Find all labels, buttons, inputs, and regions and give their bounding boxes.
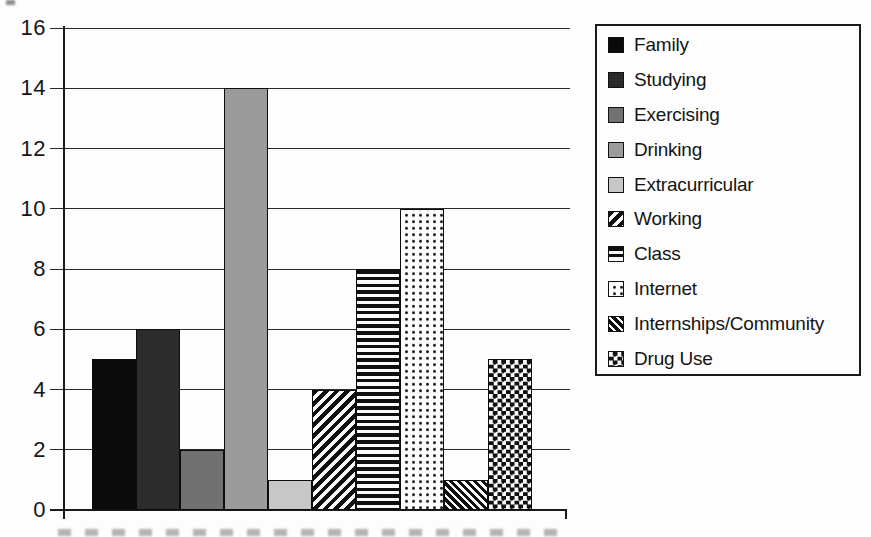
bar-working [312,390,356,511]
legend-label-drug-use: Drug Use [634,348,713,370]
gridline-14 [50,88,570,89]
legend-swatch-exercising [608,107,624,123]
bar-studying [136,329,180,510]
scan-speck-artifact [6,0,15,5]
gridline-12 [50,148,570,149]
legend-label-class: Class [634,243,681,265]
x-axis-end-tick [565,510,567,519]
legend-item-drinking: Drinking [608,132,859,167]
y-axis-line [63,26,65,519]
bar-internet [400,209,444,510]
legend-item-family: Family [608,28,859,63]
ytick-label-2: 2 [0,437,46,463]
bar-exercising [180,450,224,510]
legend-item-drug-use: Drug Use [608,341,859,376]
legend-label-extracurricular: Extracurricular [634,174,753,196]
ytick-label-6: 6 [0,316,46,342]
bar-drug-use [488,359,532,510]
legend-item-internships-community: Internships/Community [608,306,859,341]
ytick-label-14: 14 [0,75,46,101]
ytick-label-12: 12 [0,136,46,162]
legend-label-working: Working [634,208,702,230]
legend-label-studying: Studying [634,69,706,91]
cropped-caption-artifact [58,529,563,536]
gridline-6 [50,329,570,330]
legend-item-internet: Internet [608,272,859,307]
legend-swatch-family [608,37,624,53]
legend-swatch-class [608,246,624,262]
gridline-10 [50,208,570,209]
legend-swatch-drinking [608,142,624,158]
gridline-8 [50,269,570,270]
legend-label-family: Family [634,34,689,56]
legend-label-exercising: Exercising [634,104,720,126]
bar-family [92,359,136,510]
legend-swatch-extracurricular [608,177,624,193]
legend-item-studying: Studying [608,63,859,98]
bar-extracurricular [268,480,312,510]
legend-swatch-internet [608,281,624,297]
scanned-bar-chart-figure: FamilyStudyingExercisingDrinkingExtracur… [0,0,871,537]
ytick-label-16: 16 [0,15,46,41]
legend-swatch-drug-use [608,351,624,367]
legend-item-extracurricular: Extracurricular [608,167,859,202]
ytick-label-10: 10 [0,196,46,222]
legend-label-internet: Internet [634,278,697,300]
legend-swatch-internships-community [608,316,624,332]
ytick-label-4: 4 [0,377,46,403]
legend-item-class: Class [608,237,859,272]
legend: FamilyStudyingExercisingDrinkingExtracur… [595,24,861,376]
ytick-label-8: 8 [0,256,46,282]
legend-item-working: Working [608,202,859,237]
bar-drinking [224,88,268,510]
legend-swatch-working [608,211,624,227]
legend-item-exercising: Exercising [608,98,859,133]
legend-label-drinking: Drinking [634,139,702,161]
legend-label-internships-community: Internships/Community [634,313,824,335]
bar-internships-community [444,480,488,510]
bar-class [356,269,400,510]
legend-swatch-studying [608,72,624,88]
ytick-label-0: 0 [0,497,46,523]
gridline-16 [50,28,570,29]
